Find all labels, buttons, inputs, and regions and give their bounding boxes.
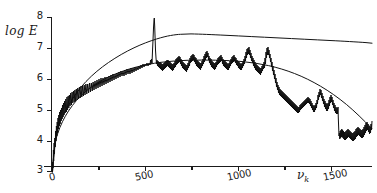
- x-axis-label-subscript: k: [304, 175, 309, 184]
- y-tick-label-3: 3: [29, 165, 43, 175]
- curve-measured-spectrum: [52, 18, 372, 172]
- y-axis-label: log E: [5, 24, 40, 40]
- y-tick-label-7: 7: [29, 42, 43, 52]
- x-axis-label: νk: [297, 168, 309, 184]
- chart-figure: 8 7 6 5 4 3 0 500 1000 1500 log E νk: [0, 0, 377, 193]
- y-axis: [47, 17, 52, 172]
- y-axis-label-subscript: [38, 31, 40, 40]
- y-tick-label-8: 8: [29, 11, 43, 21]
- y-tick-label-4: 4: [29, 135, 43, 145]
- curve-lower-envelope: [53, 60, 373, 172]
- y-axis-label-text: log E: [5, 24, 38, 38]
- x-axis: [44, 167, 372, 171]
- y-tick-label-5: 5: [29, 104, 43, 114]
- y-tick-label-6: 6: [29, 73, 43, 83]
- chart-plot-area: [0, 0, 377, 193]
